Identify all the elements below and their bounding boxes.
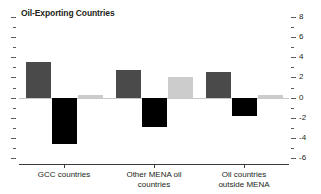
y-tick-label: 8	[299, 13, 303, 21]
y-tick-left	[11, 158, 16, 159]
bar	[142, 98, 167, 127]
y-tick-left	[11, 57, 16, 58]
bar	[26, 62, 51, 97]
y-tick-left	[13, 47, 16, 48]
y-tick-right	[291, 37, 296, 38]
y-tick-right	[291, 47, 294, 48]
y-tick-right	[291, 77, 296, 78]
y-tick-left	[11, 77, 16, 78]
y-tick-left	[11, 37, 16, 38]
y-tick-right	[291, 67, 294, 68]
bar	[258, 95, 283, 98]
y-tick-right	[291, 17, 296, 18]
y-tick-right	[291, 88, 294, 89]
y-tick-label: -4	[299, 134, 306, 142]
bar	[78, 95, 103, 98]
y-tick-left	[11, 118, 16, 119]
y-tick-label: 6	[299, 33, 303, 41]
y-tick-right	[291, 108, 294, 109]
y-tick-right	[291, 138, 296, 139]
y-tick-left	[11, 17, 16, 18]
y-tick-label: 2	[299, 73, 303, 81]
bar	[116, 70, 141, 97]
y-tick-label: 4	[299, 53, 303, 61]
y-tick-left	[11, 98, 16, 99]
bar	[206, 72, 231, 97]
y-tick-left	[13, 27, 16, 28]
y-tick-left	[13, 108, 16, 109]
y-tick-right	[291, 118, 296, 119]
y-tick-label: 0	[299, 94, 303, 102]
x-axis-tick	[244, 164, 245, 168]
y-tick-left	[13, 88, 16, 89]
y-tick-left	[13, 128, 16, 129]
bar	[168, 77, 193, 97]
x-axis-category-label: Oil countries outside MENA	[199, 170, 289, 189]
plot-area	[19, 12, 289, 164]
y-tick-label: -6	[299, 154, 306, 162]
y-tick-right	[291, 57, 296, 58]
y-tick-label: -2	[299, 114, 306, 122]
x-axis-tick	[64, 164, 65, 168]
y-tick-left	[13, 67, 16, 68]
bar	[232, 98, 257, 116]
y-tick-right	[291, 128, 294, 129]
y-tick-right	[291, 158, 296, 159]
x-axis-category-label: GCC countries	[19, 170, 109, 180]
chart-container: Oil-Exporting Countries 86420-2-4-6 GCC …	[0, 0, 321, 194]
bar	[52, 98, 77, 144]
y-tick-left	[11, 138, 16, 139]
x-axis-category-label: Other MENA oil countries	[109, 170, 199, 189]
x-axis-tick	[154, 164, 155, 168]
y-tick-right	[291, 27, 294, 28]
y-tick-right	[291, 148, 294, 149]
y-tick-left	[13, 148, 16, 149]
y-tick-right	[291, 98, 296, 99]
